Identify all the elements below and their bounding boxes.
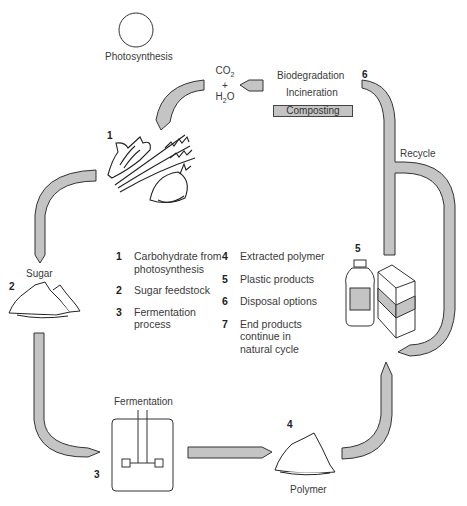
arrow-polymer-to-products [342, 362, 392, 459]
polymer-pile-icon [275, 433, 335, 475]
step-number-2: 2 [9, 281, 15, 292]
arrow-to-co2 [240, 80, 263, 91]
fermentation-label: Fermentation [114, 396, 173, 408]
sugar-label: Sugar [26, 268, 53, 280]
step-number-3: 3 [94, 469, 100, 480]
co2-h2o-label: CO2 + H2O [214, 65, 236, 106]
sugar-pile-icon [9, 282, 80, 318]
step-number-6: 6 [362, 69, 368, 80]
legend-item: 4Extracted polymer [222, 250, 342, 263]
legend-item: 2Sugar feedstock [116, 284, 236, 297]
legend-item: 6Disposal options [222, 295, 342, 308]
recycle-label: Recycle [400, 148, 436, 160]
arrow-fermentation-to-polymer [188, 447, 272, 458]
biodegradation-label: Biodegradation [277, 70, 344, 82]
plants-icon [108, 135, 195, 203]
step-number-4: 4 [287, 419, 293, 430]
arrow-co2-to-plants [156, 80, 204, 130]
legend-item: 5Plastic products [222, 273, 342, 286]
composting-label: Composting [273, 105, 353, 117]
photosynthesis-label: Photosynthesis [105, 51, 173, 63]
step-number-5: 5 [355, 243, 361, 254]
legend-right: 4Extracted polymer 5Plastic products 6Di… [222, 250, 342, 364]
legend-left: 1Carbohydrate from photosynthesis 2Sugar… [116, 250, 236, 340]
arrow-plants-to-sugar [35, 170, 96, 263]
arrow-sugar-to-fermentation [34, 333, 100, 457]
legend-item: 3Fermentation process [116, 306, 236, 331]
polymer-label: Polymer [290, 484, 327, 496]
incineration-label: Incineration [286, 87, 338, 99]
legend-item: 7End products continue in natural cycle [222, 318, 342, 356]
legend-item: 1Carbohydrate from photosynthesis [116, 250, 236, 275]
carton-icon [378, 265, 415, 338]
step-number-1: 1 [107, 130, 113, 141]
bottle-icon [346, 260, 375, 326]
sun-icon [119, 13, 153, 47]
fermenter-icon [112, 410, 173, 491]
